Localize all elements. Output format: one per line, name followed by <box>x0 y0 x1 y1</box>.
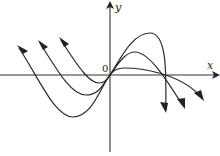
origin-label: 0 <box>102 63 108 74</box>
arrow-head-left-large <box>17 45 28 54</box>
y-axis-label: y <box>114 1 122 14</box>
arrow-head-right-medium <box>177 98 185 109</box>
arrow-head-right-large <box>160 102 168 113</box>
arrow-head-left-small <box>59 37 69 47</box>
curve-small <box>61 40 202 98</box>
arrow-head-left-medium <box>38 40 48 50</box>
x-axis-label: x <box>207 59 214 72</box>
function-graph: x y 0 <box>0 0 220 156</box>
